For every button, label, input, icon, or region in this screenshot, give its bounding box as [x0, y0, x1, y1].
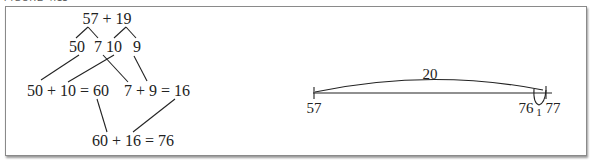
figure-svg: 57 + 19 50 7 10 9 50 + 10 = 60 7 + 9 = 1…	[0, 0, 597, 164]
back-jump-loop-1	[534, 89, 546, 105]
top-expression: 57 + 19	[82, 10, 131, 27]
jump-label-20: 20	[423, 66, 438, 82]
partial-sum-ones: 7 + 9 = 16	[124, 82, 190, 99]
connector-9	[134, 56, 147, 81]
part-7: 7	[94, 38, 102, 55]
partial-sum-tens: 50 + 10 = 60	[27, 82, 109, 99]
number-line	[313, 79, 552, 105]
label-77: 77	[546, 100, 562, 116]
connector-7	[103, 55, 128, 82]
label-76: 76	[519, 100, 535, 116]
connector-60	[97, 99, 107, 132]
part-50: 50	[69, 38, 85, 55]
split-line-57-to-7	[88, 27, 98, 38]
connector-50	[41, 55, 79, 80]
back-jump-label-1: 1	[536, 106, 542, 118]
split-line-57-to-50	[76, 27, 88, 38]
split-line-19-to-9	[126, 27, 136, 38]
connector-16	[133, 99, 175, 132]
part-10: 10	[106, 38, 122, 55]
label-57: 57	[307, 100, 323, 116]
split-line-19-to-10	[114, 27, 126, 38]
final-sum: 60 + 16 = 76	[92, 132, 174, 149]
part-9: 9	[133, 38, 141, 55]
